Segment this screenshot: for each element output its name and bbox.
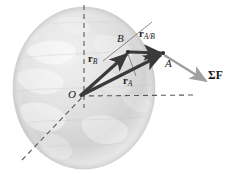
label-point-b: B xyxy=(117,33,124,44)
label-sum-force: ΣF xyxy=(208,70,223,82)
point-marker-b xyxy=(126,50,130,54)
label-vector-r-a-b: rA/B xyxy=(139,29,155,41)
label-vector-r-b: rB xyxy=(88,54,97,66)
label-r-b-subscript: B xyxy=(93,57,98,66)
vector-r-a-b xyxy=(129,52,161,53)
label-vector-r-a: rA xyxy=(123,76,132,88)
label-origin: O xyxy=(68,89,76,100)
point-marker-a xyxy=(161,51,165,55)
label-point-a: A xyxy=(165,58,172,69)
label-r-a-subscript: A xyxy=(128,79,133,88)
diagram-canvas xyxy=(0,0,240,174)
label-r-ab-subscript: A/B xyxy=(144,32,155,41)
mechanics-vector-diagram: O B A rB rA rA/B ΣF xyxy=(0,0,240,174)
